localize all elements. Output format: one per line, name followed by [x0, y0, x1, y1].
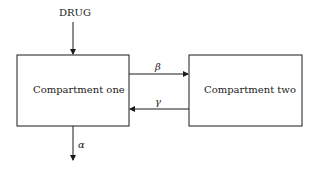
beta-label: β: [155, 61, 161, 72]
compartment-two-label: Compartment two: [204, 84, 296, 95]
alpha-label: α: [78, 139, 85, 150]
gamma-label: γ: [155, 96, 161, 107]
drug-label: DRUG: [59, 7, 91, 18]
compartment-one-label: Compartment one: [33, 84, 125, 95]
